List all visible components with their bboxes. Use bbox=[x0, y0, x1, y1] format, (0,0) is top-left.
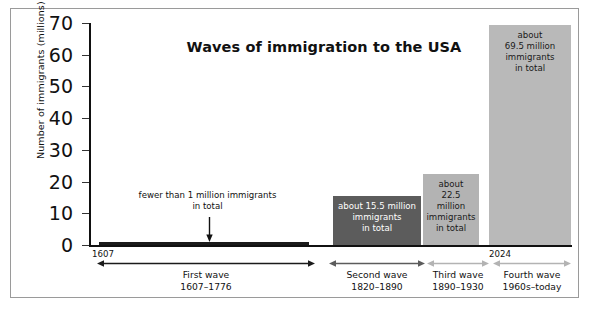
y-tick-20: 20 bbox=[82, 182, 89, 183]
y-tick-label-50: 50 bbox=[49, 77, 73, 96]
y-axis-title: Number of immigrants (millions) bbox=[35, 1, 46, 159]
y-axis-line bbox=[89, 23, 91, 245]
bar-label-third-wave: about 22.5 million immigrants in total bbox=[423, 174, 479, 234]
plot-area: Waves of immigration to the USA 70 60 50… bbox=[89, 23, 572, 245]
y-tick-70: 70 bbox=[82, 23, 89, 24]
y-tick-30: 30 bbox=[82, 150, 89, 151]
range-arrow-second bbox=[329, 259, 425, 268]
bar-first-wave bbox=[99, 242, 309, 245]
range-arrow-first bbox=[97, 259, 315, 268]
bar-second-wave: about 15.5 million immigrants in total bbox=[333, 196, 421, 245]
axis-year-end: 2024 bbox=[489, 249, 511, 259]
range-label-fourth: Fourth wave 1960s–today bbox=[493, 269, 571, 293]
y-tick-label-10: 10 bbox=[49, 204, 73, 223]
bar-third-wave: about 22.5 million immigrants in total bbox=[423, 174, 479, 245]
wave-range-fourth: Fourth wave 1960s–today bbox=[493, 259, 571, 293]
y-tick-50: 50 bbox=[82, 86, 89, 87]
bar-fourth-wave: about 69.5 million immigrants in total bbox=[489, 25, 571, 245]
range-label-first: First wave 1607–1776 bbox=[97, 269, 315, 293]
axis-year-start: 1607 bbox=[92, 249, 114, 259]
x-axis-line bbox=[89, 245, 572, 247]
wave-range-third: Third wave 1890–1930 bbox=[427, 259, 489, 293]
wave-range-second: Second wave 1820–1890 bbox=[329, 259, 425, 293]
y-tick-label-20: 20 bbox=[49, 172, 73, 191]
annotation-arrow-down-icon bbox=[205, 217, 214, 243]
chart-figure: Number of immigrants (millions) Waves of… bbox=[10, 8, 579, 298]
y-tick-10: 10 bbox=[82, 213, 89, 214]
y-tick-label-40: 40 bbox=[49, 109, 73, 128]
range-arrow-fourth bbox=[493, 259, 571, 268]
y-tick-60: 60 bbox=[82, 55, 89, 56]
range-label-third: Third wave 1890–1930 bbox=[427, 269, 489, 293]
wave-range-first: First wave 1607–1776 bbox=[97, 259, 315, 293]
y-tick-40: 40 bbox=[82, 118, 89, 119]
y-tick-0: 0 bbox=[82, 245, 89, 246]
range-label-second: Second wave 1820–1890 bbox=[329, 269, 425, 293]
bar-label-fourth-wave: about 69.5 million immigrants in total bbox=[489, 25, 571, 74]
range-arrow-third bbox=[427, 259, 489, 268]
wave-ranges: First wave 1607–1776 Second wave 1820–18… bbox=[89, 259, 572, 295]
y-tick-label-30: 30 bbox=[49, 140, 73, 159]
first-wave-annotation: fewer than 1 million immigrants in total bbox=[115, 190, 300, 212]
y-tick-label-70: 70 bbox=[49, 14, 73, 33]
y-tick-label-60: 60 bbox=[49, 45, 73, 64]
y-tick-label-0: 0 bbox=[61, 236, 73, 255]
bar-label-second-wave: about 15.5 million immigrants in total bbox=[333, 196, 421, 234]
